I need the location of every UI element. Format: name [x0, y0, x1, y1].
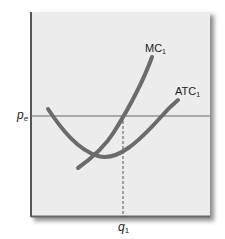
cost-curves-chart: MC1 ATC1 pe q1 — [0, 0, 225, 239]
price-label: pe — [16, 108, 29, 123]
plot-area — [31, 12, 210, 217]
quantity-label: q1 — [118, 220, 130, 235]
